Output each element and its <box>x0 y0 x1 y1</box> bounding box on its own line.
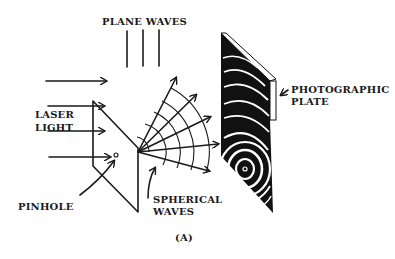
plate-pointer-arrow <box>281 90 288 95</box>
ray-arrow <box>138 144 218 152</box>
pinhole-pointer-arrow <box>80 161 114 195</box>
plate-label-line2: PLATE <box>291 96 329 107</box>
plate-side-edge <box>270 81 276 120</box>
spherical-waves-label-line2: WAVES <box>152 206 194 217</box>
figure-caption: (A) <box>175 232 193 243</box>
laser-label-line1: LASER <box>35 109 74 120</box>
ray-arrow <box>138 152 209 171</box>
spherical-waves-label-line1: SPHERICAL <box>153 194 222 205</box>
plane-wave-fronts <box>127 30 159 67</box>
plate-label-line1: PHOTOGRAPHIC <box>291 84 389 95</box>
spherical-waves <box>137 78 218 173</box>
laser-label-line2: LIGHT <box>35 122 73 133</box>
holography-diagram: PLANE WAVES LASER LIGHT PINHOLE SPHERICA… <box>0 0 395 259</box>
plane-waves-label: PLANE WAVES <box>102 16 187 27</box>
ray-arrow <box>138 117 210 152</box>
photographic-plate <box>220 33 276 213</box>
pinhole-label: PINHOLE <box>18 201 74 212</box>
pinhole-dot <box>114 153 118 157</box>
